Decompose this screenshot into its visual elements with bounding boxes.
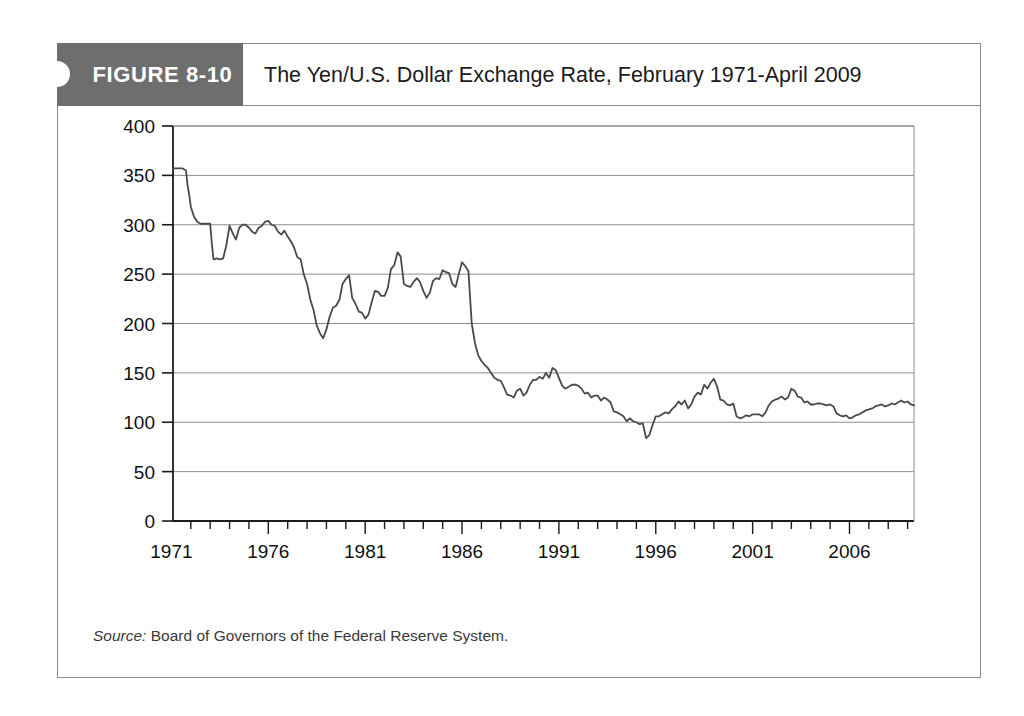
x-tick-label: 1971: [150, 541, 192, 562]
x-tick-label: 1996: [635, 541, 677, 562]
chart-area: 050100150200250300350400 197119761981198…: [58, 106, 980, 616]
y-tick-label: 250: [123, 264, 155, 285]
x-tick-label: 1986: [441, 541, 483, 562]
y-tick-label: 300: [123, 215, 155, 236]
y-tick-label: 400: [123, 116, 155, 137]
source-text: Board of Governors of the Federal Reserv…: [146, 627, 508, 644]
x-tick-label: 1976: [247, 541, 289, 562]
gridlines: [173, 126, 914, 472]
source-note: Source: Board of Governors of the Federa…: [93, 627, 508, 645]
source-label: Source:: [93, 627, 146, 644]
y-tick-label: 50: [134, 462, 155, 483]
y-axis-ticks: [162, 126, 173, 521]
tab-notch-shape: [57, 61, 70, 87]
x-axis-labels: 19711976198119861991199620012006: [150, 541, 870, 562]
x-axis-ticks: [191, 521, 908, 534]
y-tick-label: 0: [144, 511, 155, 532]
line-chart: 050100150200250300350400 197119761981198…: [58, 106, 980, 616]
figure-number-tab: FIGURE 8-10: [57, 43, 243, 106]
y-tick-label: 100: [123, 412, 155, 433]
x-tick-label: 2001: [731, 541, 773, 562]
x-tick-label: 1981: [344, 541, 386, 562]
x-tick-label: 2006: [828, 541, 870, 562]
exchange-rate-line: [173, 168, 914, 438]
y-axis-labels: 050100150200250300350400: [123, 116, 155, 532]
y-tick-label: 150: [123, 363, 155, 384]
figure-container: FIGURE 8-10 The Yen/U.S. Dollar Exchange…: [57, 43, 981, 678]
figure-title: The Yen/U.S. Dollar Exchange Rate, Febru…: [264, 44, 862, 106]
y-tick-label: 200: [123, 314, 155, 335]
x-tick-label: 1991: [538, 541, 580, 562]
figure-number-label: FIGURE 8-10: [93, 43, 233, 106]
y-tick-label: 350: [123, 165, 155, 186]
figure-header: FIGURE 8-10 The Yen/U.S. Dollar Exchange…: [58, 44, 980, 106]
